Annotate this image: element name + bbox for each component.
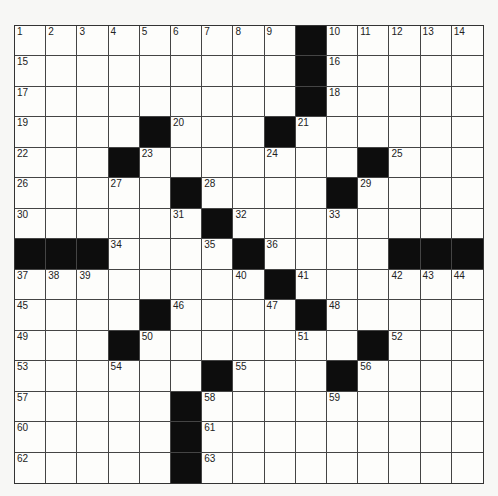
crossword-cell[interactable] <box>296 422 327 452</box>
crossword-cell[interactable] <box>327 453 358 483</box>
crossword-cell[interactable]: 5 <box>140 26 171 56</box>
crossword-cell[interactable]: 48 <box>327 300 358 330</box>
crossword-cell[interactable] <box>171 56 202 86</box>
crossword-cell[interactable] <box>140 270 171 300</box>
crossword-cell[interactable] <box>389 361 420 391</box>
crossword-cell[interactable] <box>421 209 452 239</box>
crossword-cell[interactable]: 30 <box>15 209 46 239</box>
crossword-cell[interactable] <box>140 392 171 422</box>
crossword-cell[interactable]: 35 <box>202 239 233 269</box>
crossword-cell[interactable]: 12 <box>389 26 420 56</box>
crossword-cell[interactable] <box>296 148 327 178</box>
crossword-cell[interactable] <box>389 209 420 239</box>
crossword-cell[interactable] <box>46 422 77 452</box>
crossword-cell[interactable]: 56 <box>358 361 389 391</box>
crossword-cell[interactable] <box>296 361 327 391</box>
crossword-cell[interactable] <box>233 331 264 361</box>
crossword-cell[interactable] <box>77 422 108 452</box>
crossword-cell[interactable] <box>109 87 140 117</box>
crossword-cell[interactable] <box>327 422 358 452</box>
crossword-cell[interactable]: 23 <box>140 148 171 178</box>
crossword-cell[interactable] <box>140 361 171 391</box>
crossword-cell[interactable] <box>265 209 296 239</box>
crossword-cell[interactable] <box>233 56 264 86</box>
crossword-cell[interactable] <box>452 422 483 452</box>
crossword-cell[interactable]: 7 <box>202 26 233 56</box>
crossword-cell[interactable]: 10 <box>327 26 358 56</box>
crossword-cell[interactable] <box>452 56 483 86</box>
crossword-cell[interactable] <box>77 178 108 208</box>
crossword-cell[interactable]: 59 <box>327 392 358 422</box>
crossword-cell[interactable]: 54 <box>109 361 140 391</box>
crossword-cell[interactable] <box>233 392 264 422</box>
crossword-cell[interactable] <box>421 117 452 147</box>
crossword-cell[interactable] <box>265 392 296 422</box>
crossword-cell[interactable]: 20 <box>171 117 202 147</box>
crossword-cell[interactable]: 31 <box>171 209 202 239</box>
crossword-cell[interactable]: 6 <box>171 26 202 56</box>
crossword-cell[interactable] <box>452 87 483 117</box>
crossword-cell[interactable] <box>46 87 77 117</box>
crossword-cell[interactable]: 55 <box>233 361 264 391</box>
crossword-cell[interactable]: 26 <box>15 178 46 208</box>
crossword-cell[interactable] <box>421 422 452 452</box>
crossword-cell[interactable] <box>46 453 77 483</box>
crossword-cell[interactable] <box>421 178 452 208</box>
crossword-cell[interactable]: 52 <box>389 331 420 361</box>
crossword-cell[interactable] <box>202 331 233 361</box>
crossword-cell[interactable]: 53 <box>15 361 46 391</box>
crossword-cell[interactable]: 18 <box>327 87 358 117</box>
crossword-cell[interactable] <box>358 300 389 330</box>
crossword-cell[interactable]: 13 <box>421 26 452 56</box>
crossword-cell[interactable] <box>358 209 389 239</box>
crossword-cell[interactable] <box>77 117 108 147</box>
crossword-cell[interactable] <box>452 148 483 178</box>
crossword-cell[interactable]: 41 <box>296 270 327 300</box>
crossword-cell[interactable]: 27 <box>109 178 140 208</box>
crossword-cell[interactable] <box>109 300 140 330</box>
crossword-cell[interactable] <box>202 148 233 178</box>
crossword-cell[interactable] <box>358 392 389 422</box>
crossword-cell[interactable] <box>77 392 108 422</box>
crossword-cell[interactable] <box>358 453 389 483</box>
crossword-cell[interactable]: 28 <box>202 178 233 208</box>
crossword-cell[interactable]: 34 <box>109 239 140 269</box>
crossword-cell[interactable] <box>109 209 140 239</box>
crossword-cell[interactable] <box>109 422 140 452</box>
crossword-cell[interactable] <box>202 56 233 86</box>
crossword-cell[interactable]: 38 <box>46 270 77 300</box>
crossword-cell[interactable] <box>171 148 202 178</box>
crossword-cell[interactable] <box>389 178 420 208</box>
crossword-cell[interactable]: 22 <box>15 148 46 178</box>
crossword-cell[interactable] <box>233 87 264 117</box>
crossword-cell[interactable]: 40 <box>233 270 264 300</box>
crossword-cell[interactable] <box>452 331 483 361</box>
crossword-cell[interactable]: 15 <box>15 56 46 86</box>
crossword-cell[interactable] <box>77 331 108 361</box>
crossword-cell[interactable] <box>296 453 327 483</box>
crossword-cell[interactable]: 32 <box>233 209 264 239</box>
crossword-cell[interactable] <box>389 56 420 86</box>
crossword-cell[interactable]: 29 <box>358 178 389 208</box>
crossword-cell[interactable] <box>202 117 233 147</box>
crossword-cell[interactable] <box>358 422 389 452</box>
crossword-cell[interactable]: 39 <box>77 270 108 300</box>
crossword-cell[interactable] <box>46 361 77 391</box>
crossword-cell[interactable]: 60 <box>15 422 46 452</box>
crossword-cell[interactable] <box>77 361 108 391</box>
crossword-cell[interactable] <box>265 361 296 391</box>
crossword-cell[interactable] <box>296 239 327 269</box>
crossword-cell[interactable]: 44 <box>452 270 483 300</box>
crossword-cell[interactable] <box>296 209 327 239</box>
crossword-cell[interactable]: 58 <box>202 392 233 422</box>
crossword-cell[interactable] <box>358 56 389 86</box>
crossword-cell[interactable]: 51 <box>296 331 327 361</box>
crossword-cell[interactable] <box>171 239 202 269</box>
crossword-cell[interactable] <box>265 178 296 208</box>
crossword-cell[interactable] <box>389 453 420 483</box>
crossword-cell[interactable] <box>46 148 77 178</box>
crossword-cell[interactable] <box>202 270 233 300</box>
crossword-cell[interactable] <box>233 300 264 330</box>
crossword-cell[interactable]: 47 <box>265 300 296 330</box>
crossword-cell[interactable] <box>46 392 77 422</box>
